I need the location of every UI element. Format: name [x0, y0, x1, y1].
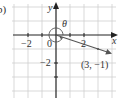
x-axis-label: x: [112, 36, 116, 46]
x-tick-label-2: 2: [81, 39, 86, 49]
part-label: b): [0, 4, 6, 15]
angle-label: θ: [62, 19, 67, 29]
x-tick-label-neg2: −2: [21, 39, 32, 49]
ray-arrow-icon: [105, 49, 112, 55]
coordinate-plane: [0, 0, 122, 101]
y-axis-arrow-icon: [53, 2, 59, 9]
y-axis-label: y: [48, 3, 52, 13]
point-label: (3, −1): [81, 60, 108, 70]
point-marker: [97, 48, 99, 50]
x-tick-label-0: 0: [47, 39, 52, 49]
y-tick-label-neg2: −2: [40, 58, 51, 68]
